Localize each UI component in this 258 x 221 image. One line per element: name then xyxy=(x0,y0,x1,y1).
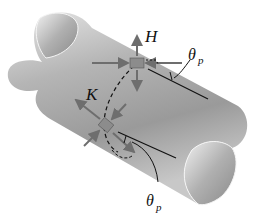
shaft-end-bottom-right xyxy=(184,142,236,205)
label-h: H xyxy=(144,27,159,46)
shaft-stress-diagram: H K θ p θ p xyxy=(0,0,258,221)
label-theta-top: θ xyxy=(188,46,196,63)
label-theta-top-subscript: p xyxy=(197,54,204,66)
label-k: K xyxy=(85,85,99,104)
label-theta-bottom-subscript: p xyxy=(155,201,162,213)
label-theta-bottom: θ xyxy=(146,192,154,209)
